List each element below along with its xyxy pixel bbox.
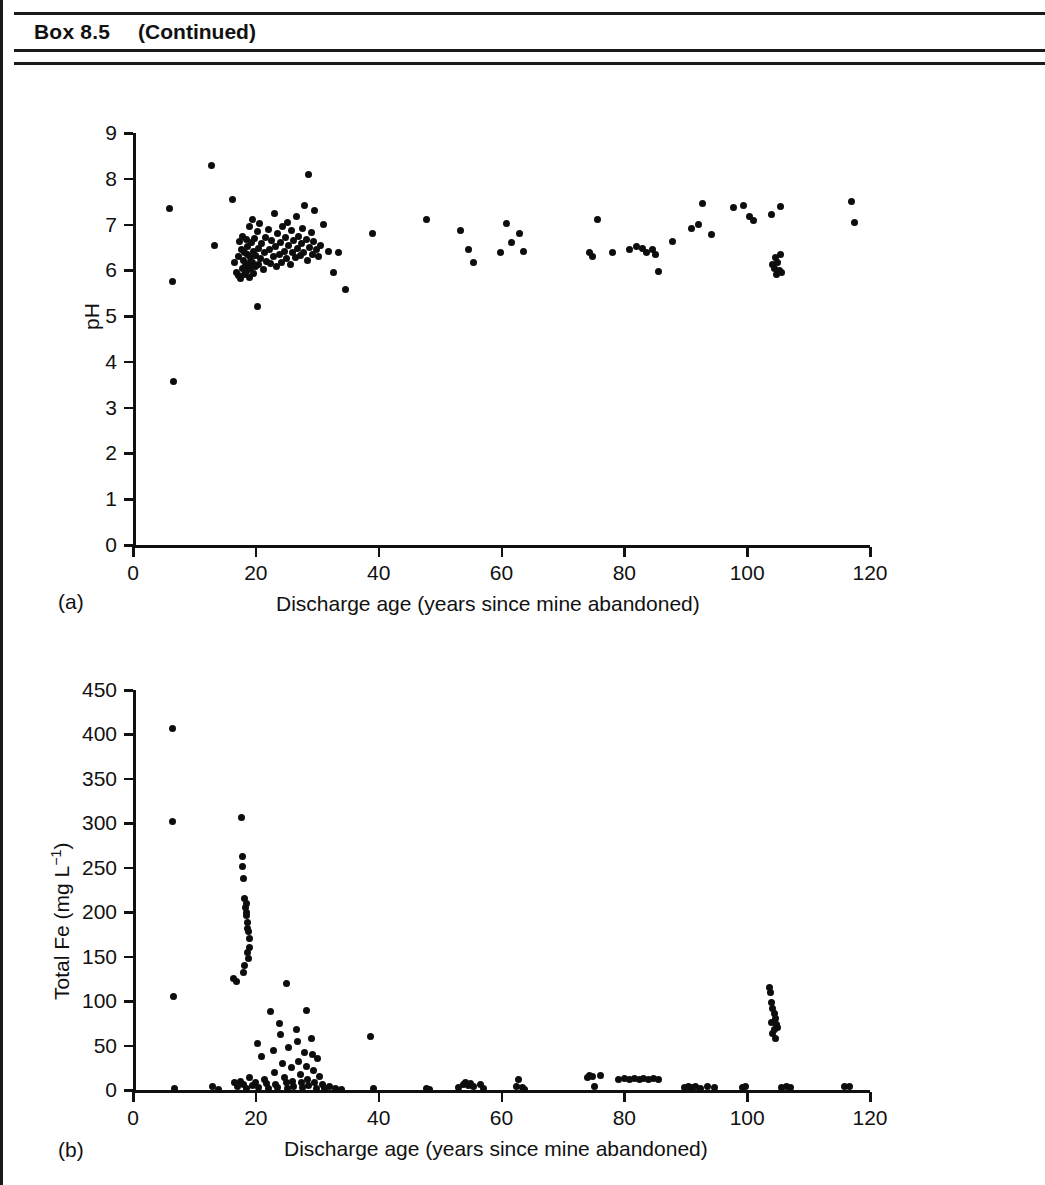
y-axis-title-b: Total Fe (mg L−1) — [48, 843, 74, 1000]
y-tick — [124, 1000, 133, 1003]
data-point — [170, 378, 177, 385]
x-tick-label: 0 — [127, 561, 139, 585]
data-point — [265, 226, 272, 233]
data-point — [287, 261, 294, 268]
data-point — [335, 249, 342, 256]
data-point — [233, 978, 240, 985]
x-tick — [132, 1092, 135, 1102]
y-tick-label: 450 — [82, 678, 117, 702]
y-tick-label: 5 — [105, 304, 117, 328]
data-point — [166, 205, 173, 212]
y-tick-label: 100 — [82, 989, 117, 1013]
y-tick-label: 400 — [82, 722, 117, 746]
data-point — [274, 230, 281, 237]
panel-label-a: (a) — [58, 590, 84, 614]
data-point — [170, 993, 177, 1000]
data-point — [330, 269, 337, 276]
y-tick-label: 7 — [105, 213, 117, 237]
data-point — [771, 1026, 778, 1033]
data-point — [301, 202, 308, 209]
data-point — [265, 1085, 272, 1092]
x-tick-label: 100 — [730, 561, 765, 585]
data-point — [772, 1035, 779, 1042]
x-tick-label: 120 — [852, 1106, 887, 1130]
data-point — [246, 935, 253, 942]
x-tick-label: 80 — [613, 1106, 636, 1130]
x-tick-label: 100 — [730, 1106, 765, 1130]
data-point — [470, 259, 477, 266]
data-point — [308, 1035, 315, 1042]
data-point — [338, 1086, 345, 1093]
y-tick — [124, 132, 133, 135]
data-point — [284, 219, 291, 226]
y-tick-label: 6 — [105, 258, 117, 282]
data-point — [742, 1083, 749, 1090]
data-point — [305, 171, 312, 178]
data-point — [301, 1049, 308, 1056]
y-tick-label: 9 — [105, 121, 117, 145]
plot-area-b: 0501001502002503003504004500204060801001… — [133, 690, 870, 1090]
y-tick-label: 1 — [105, 487, 117, 511]
data-point — [240, 969, 247, 976]
data-point — [311, 207, 318, 214]
y-tick — [124, 452, 133, 455]
data-point — [293, 213, 300, 220]
data-point — [370, 1085, 377, 1092]
data-point — [240, 875, 247, 882]
y-tick — [124, 733, 133, 736]
data-point — [470, 1083, 477, 1090]
x-axis-title-b: Discharge age (years since mine abandone… — [284, 1137, 708, 1161]
data-point — [778, 269, 785, 276]
data-point — [777, 203, 784, 210]
data-point — [281, 248, 288, 255]
data-point — [342, 286, 349, 293]
y-tick-label: 2 — [105, 441, 117, 465]
x-tick — [869, 1092, 872, 1102]
data-point — [465, 246, 472, 253]
data-point — [254, 1040, 261, 1047]
data-point — [303, 236, 310, 243]
data-point — [293, 1026, 300, 1033]
data-point — [250, 270, 257, 277]
data-point — [851, 219, 858, 226]
y-tick — [124, 867, 133, 870]
data-point — [288, 1064, 295, 1071]
data-point — [270, 1047, 277, 1054]
y-tick-label: 50 — [94, 1034, 117, 1058]
data-point — [516, 230, 523, 237]
data-point — [426, 1086, 433, 1093]
x-tick — [746, 1092, 749, 1102]
data-point — [457, 227, 464, 234]
x-tick-label: 40 — [367, 1106, 390, 1130]
data-point — [276, 1020, 283, 1027]
data-point — [308, 229, 315, 236]
data-point — [589, 1073, 596, 1080]
x-tick-label: 120 — [852, 561, 887, 585]
data-point — [310, 1067, 317, 1074]
data-point — [314, 1055, 321, 1062]
data-point — [238, 814, 245, 821]
x-tick-label: 60 — [490, 561, 513, 585]
data-point — [239, 853, 246, 860]
data-point — [245, 928, 252, 935]
x-tick — [869, 547, 872, 557]
y-tick-label: 300 — [82, 811, 117, 835]
y-tick — [124, 822, 133, 825]
data-point — [695, 221, 702, 228]
data-point — [304, 257, 311, 264]
x-tick — [255, 547, 258, 557]
data-point — [325, 248, 332, 255]
y-tick — [124, 315, 133, 318]
x-tick — [746, 547, 749, 557]
data-point — [254, 303, 261, 310]
data-point — [310, 238, 317, 245]
data-point — [277, 1031, 284, 1038]
data-point — [777, 251, 784, 258]
data-point — [169, 278, 176, 285]
data-point — [241, 962, 248, 969]
panel-label-b: (b) — [58, 1138, 84, 1162]
data-point — [288, 227, 295, 234]
data-point — [848, 198, 855, 205]
data-point — [243, 900, 250, 907]
box-continued-label: (Continued) — [110, 20, 256, 44]
